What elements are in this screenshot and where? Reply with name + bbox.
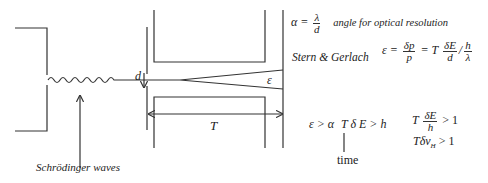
epsilon-equation: ε = δpp = T δEd/hλ [382,40,474,63]
time-label: time [337,154,358,166]
label-d: d [135,70,141,82]
label-T: T [210,119,217,132]
alpha-equation: α = λd angle for optical resolution [291,12,448,35]
condition-TdE-h: T δ E > h [341,118,386,130]
upper-magnet [154,10,265,62]
label-epsilon: ε [267,74,272,86]
schrodinger-wave [48,78,145,83]
condition-eps-alpha: ε > α [309,118,334,130]
condition-T-dnu: TδνH > 1 [413,135,454,150]
condition-TdE-over-h: T δEh > 1 [412,110,458,133]
source-box [15,28,47,131]
waves-caption: Schrödinger waves [36,162,120,173]
stern-gerlach-label: Stern & Gerlach [292,52,369,64]
